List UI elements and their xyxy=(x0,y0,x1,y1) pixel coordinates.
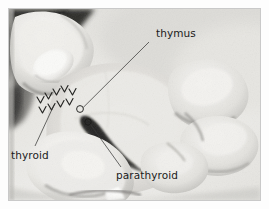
figure-frame: thymus thyroid parathyroid xyxy=(8,8,261,201)
figure-container: thymus thyroid parathyroid xyxy=(0,0,269,209)
anatomy-photograph xyxy=(9,9,260,200)
